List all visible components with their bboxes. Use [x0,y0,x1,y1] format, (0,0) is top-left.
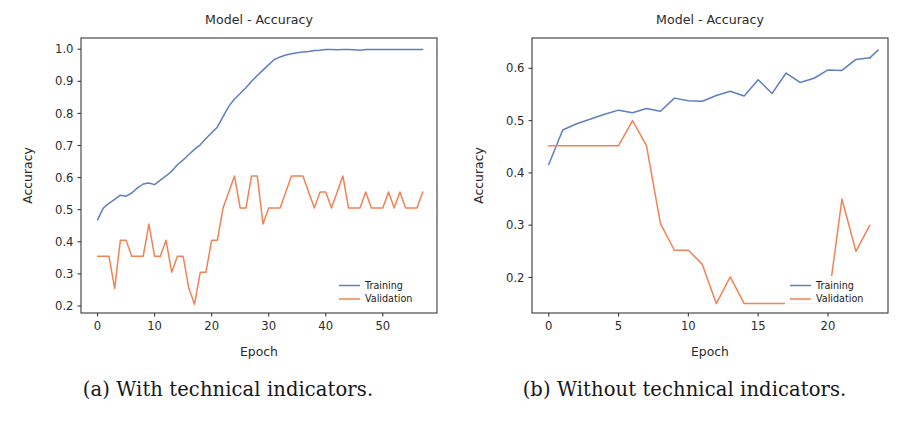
y-tick-label: 0.5 [55,203,73,217]
y-tick-label: 0.3 [55,267,73,281]
y-tick-label: 0.8 [55,107,73,121]
chart-a: Model - Accuracy0.20.30.40.50.60.70.80.9… [0,0,456,372]
legend-label-training: Training [815,280,854,291]
y-tick-label: 0.2 [55,299,73,313]
y-axis-label: Accuracy [471,147,486,204]
caption-a: (a) With technical indicators. [0,378,456,401]
chart-b-canvas: Model - Accuracy0.20.30.40.50.605101520E… [456,0,913,372]
x-axis-label: Epoch [691,344,729,359]
y-tick-label: 0.3 [506,218,524,232]
x-tick-label: 20 [821,319,836,333]
figure-page: Model - Accuracy0.20.30.40.50.60.70.80.9… [0,0,913,437]
y-tick-label: 0.4 [506,166,524,180]
y-axis-label: Accuracy [20,147,35,204]
plot-frame [532,38,888,313]
figure-panel-b: Model - Accuracy0.20.30.40.50.605101520E… [456,0,913,437]
x-tick-label: 15 [751,319,766,333]
legend-label-training: Training [364,280,403,291]
x-axis-label: Epoch [240,344,278,359]
figure-panel-a: Model - Accuracy0.20.30.40.50.60.70.80.9… [0,0,456,437]
y-tick-label: 0.5 [506,114,524,128]
y-tick-label: 0.7 [55,139,73,153]
y-tick-label: 1.0 [55,42,73,56]
y-tick-label: 0.2 [506,271,524,285]
series-line-training [549,58,870,165]
x-tick-label: 5 [615,319,622,333]
x-tick-label: 10 [681,319,696,333]
chart-b: Model - Accuracy0.20.30.40.50.605101520E… [456,0,913,372]
x-tick-label: 40 [318,319,333,333]
x-tick-label: 10 [147,319,162,333]
legend-label-validation: Validation [365,293,412,304]
x-tick-label: 50 [375,319,390,333]
x-tick-label: 30 [261,319,276,333]
y-tick-label: 0.9 [55,74,73,88]
caption-b: (b) Without technical indicators. [456,378,913,401]
chart-a-canvas: Model - Accuracy0.20.30.40.50.60.70.80.9… [0,0,456,372]
chart-title: Model - Accuracy [205,12,313,27]
chart-title: Model - Accuracy [656,12,764,27]
y-tick-label: 0.4 [55,235,73,249]
x-tick-label: 20 [204,319,219,333]
y-tick-label: 0.6 [55,171,73,185]
plot-frame [81,38,437,313]
series-line-training-tail [870,50,878,58]
y-tick-label: 0.6 [506,61,524,75]
x-tick-label: 0 [94,319,101,333]
x-tick-label: 0 [545,319,552,333]
legend-label-validation: Validation [816,293,863,304]
